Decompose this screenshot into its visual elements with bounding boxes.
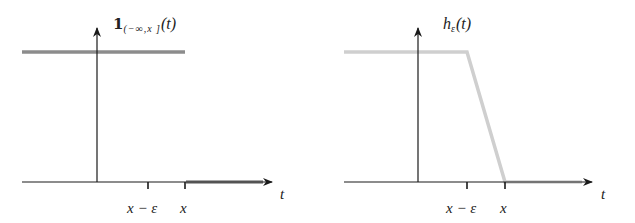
right-h-eps-curve (344, 52, 582, 182)
diagram-canvas (0, 0, 635, 223)
right-title-main: h (443, 15, 451, 32)
right-tick-label-x: x (500, 200, 507, 217)
left-x-axis-label: t (280, 186, 284, 203)
left-tick-label-x: x (180, 200, 187, 217)
left-title-main: 1 (113, 15, 123, 33)
right-x-axis-label: t (601, 186, 605, 203)
left-panel-graph (22, 28, 272, 189)
right-title-arg: (t) (456, 15, 471, 32)
left-title-arg: (t) (161, 15, 176, 32)
left-title: 1(−∞,x ](t) (113, 15, 176, 34)
right-title: hε(t) (443, 15, 471, 34)
left-title-subscript: (−∞,x ] (123, 23, 161, 34)
left-tick-label-x-minus-eps: x − ε (127, 200, 157, 217)
right-panel-graph (344, 28, 592, 189)
right-tick-label-x-minus-eps: x − ε (446, 200, 476, 217)
